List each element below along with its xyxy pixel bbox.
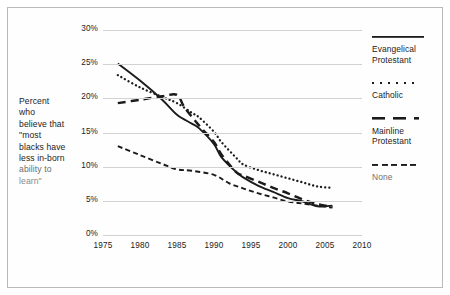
plot-area: 0%5%10%15%20%25%30%197519801985199019952… [103,30,362,235]
gridline-30% [103,30,362,31]
gridline-20% [103,98,362,99]
legend-swatch-dashed [372,160,424,169]
x-tick-label-1985: 1985 [167,241,186,250]
y-tick-label-0%: 0% [86,229,98,238]
y-axis-caption: Percent who believe that "most blacks ha… [19,96,87,187]
gridline-10% [103,167,362,168]
y-caption-line-7: ability to [19,164,87,175]
y-tick-label-25%: 25% [81,58,98,67]
legend-label-2b: Protestant [372,136,438,147]
legend: Evangelical Protestant Catholic Mainline… [372,32,438,196]
series-line-catholic [118,75,333,188]
legend-swatch-longdash [372,114,424,123]
series-line-mainline-protestant [118,94,333,207]
legend-swatch-solid [372,32,424,41]
y-caption-line-8: learn" [19,176,87,187]
figure-page: Percent who believe that "most blacks ha… [0,0,450,295]
gridline-5% [103,201,362,202]
x-tick-label-2005: 2005 [315,241,334,250]
x-tick-label-1995: 1995 [241,241,260,250]
x-tick-label-1980: 1980 [130,241,149,250]
x-tick-label-1975: 1975 [93,241,112,250]
y-tick-label-5%: 5% [86,194,98,203]
series-line-evangelical-protestant [118,63,333,206]
x-tick-label-2000: 2000 [278,241,297,250]
y-caption-line-5: blacks have [19,142,87,153]
y-tick-label-30%: 30% [81,24,98,33]
legend-item-1: Catholic [372,78,438,101]
legend-label-2a: Mainline [372,126,438,137]
y-caption-line-6: less in-born [19,153,87,164]
legend-item-3: None [372,160,438,183]
y-tick-label-20%: 20% [81,92,98,101]
gridline-25% [103,64,362,65]
legend-label-3a: None [372,172,438,183]
y-tick-label-15%: 15% [81,126,98,135]
y-caption-line-1: Percent [19,96,87,107]
legend-item-2: Mainline Protestant [372,114,438,147]
legend-item-0: Evangelical Protestant [372,32,438,65]
legend-label-0b: Protestant [372,55,438,66]
gridline-0% [103,235,362,236]
legend-label-1a: Catholic [372,90,438,101]
gridline-15% [103,133,362,134]
y-caption-line-2: who [19,107,87,118]
y-caption-line-3: believe that [19,119,87,130]
legend-swatch-dotted [372,78,424,87]
x-tick-label-1990: 1990 [204,241,223,250]
y-caption-line-4: "most [19,130,87,141]
x-tick-label-2010: 2010 [352,241,371,250]
y-tick-label-10%: 10% [81,160,98,169]
legend-label-0a: Evangelical [372,44,438,55]
